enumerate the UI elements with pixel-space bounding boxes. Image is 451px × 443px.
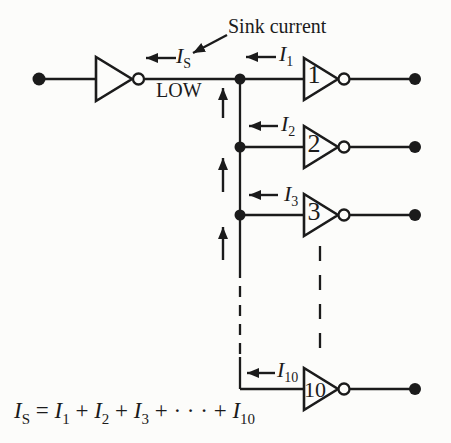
junction-dot-3 — [235, 210, 246, 221]
eq-op: = — [30, 398, 54, 423]
gate-number-2: 2 — [303, 131, 325, 157]
load-gate-10-bubble — [339, 384, 350, 395]
circuit-diagram — [0, 0, 451, 443]
junction-dot-2 — [235, 142, 246, 153]
output-node-dot-3 — [409, 209, 421, 221]
load-gate-1-bubble — [339, 74, 350, 85]
sink-current-label: Sink current — [228, 16, 326, 36]
driver-inverter-triangle — [96, 57, 132, 101]
current-subscript: 2 — [288, 124, 295, 139]
eq-op: + — [109, 398, 133, 423]
current-subscript: S — [183, 56, 191, 71]
label-current-i10: I10 — [277, 359, 298, 381]
current-subscript: 10 — [284, 370, 298, 385]
junction-dot-1 — [235, 74, 246, 85]
current-subscript: 1 — [286, 54, 293, 69]
input-node-dot — [33, 73, 46, 86]
gate-number-1: 1 — [303, 62, 325, 88]
label-current-i1: I1 — [279, 43, 293, 65]
figure-canvas: Sink current LOW IS I1 I2 I3 I10 1 2 3 1… — [0, 0, 451, 443]
eq-sub: 10 — [240, 411, 255, 427]
load-gate-2-bubble — [339, 142, 350, 153]
output-node-dot-10 — [409, 383, 421, 395]
eq-sub: 3 — [141, 411, 149, 427]
sink-current-equation: IS = I1 + I2 + I3 + · · · + I10 — [14, 399, 255, 423]
annotation-pointer-arrow-icon — [193, 35, 227, 53]
output-node-dot-1 — [409, 73, 421, 85]
eq-sub: S — [22, 411, 30, 427]
low-state-label: LOW — [156, 80, 202, 100]
eq-op: + · · · + — [149, 398, 232, 423]
current-subscript: 3 — [291, 194, 298, 209]
driver-inverter-bubble — [133, 74, 144, 85]
eq-sub: 1 — [62, 411, 70, 427]
eq-term: I — [232, 398, 240, 423]
eq-op: + — [70, 398, 94, 423]
gate-number-3: 3 — [303, 199, 325, 225]
label-current-is: IS — [176, 45, 191, 67]
label-current-i3: I3 — [284, 183, 298, 205]
eq-term: I — [94, 398, 102, 423]
label-current-i2: I2 — [281, 113, 295, 135]
load-gate-3-bubble — [339, 210, 350, 221]
output-node-dot-2 — [409, 141, 421, 153]
gate-number-10: 10 — [301, 378, 329, 402]
eq-term: I — [14, 398, 22, 423]
